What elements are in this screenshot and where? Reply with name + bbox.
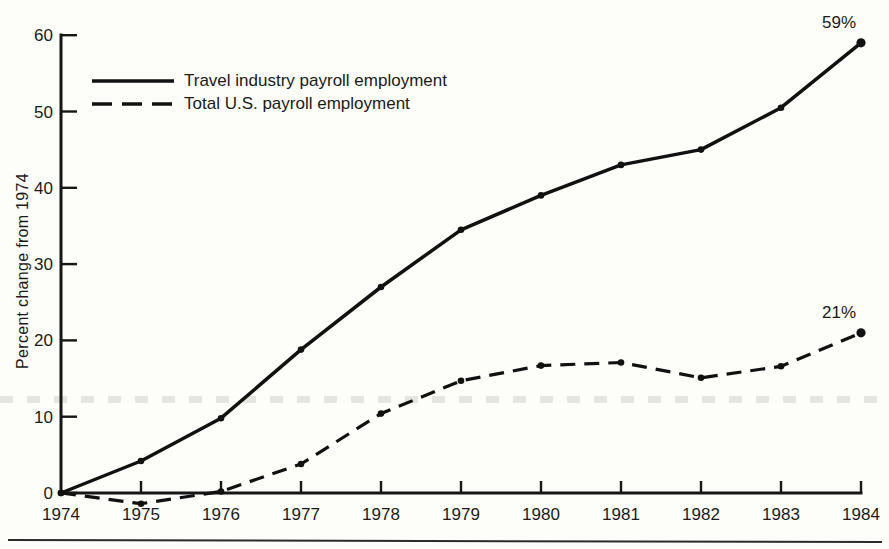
data-point-marker [856, 328, 865, 337]
data-point-marker [778, 363, 785, 370]
y-tick-label: 10 [34, 408, 53, 427]
data-point-marker [298, 346, 305, 353]
end-label-total-us: 21% [822, 303, 856, 323]
legend-label-total-us: Total U.S. payroll employment [184, 94, 410, 114]
data-point-marker [618, 359, 625, 366]
data-point-marker [218, 488, 225, 495]
data-point-marker [856, 38, 865, 47]
data-point-marker [218, 415, 225, 422]
dashed-line-sample-icon [91, 99, 175, 109]
y-tick-label: 30 [34, 255, 53, 274]
data-point-marker [538, 362, 545, 369]
x-tick-label: 1975 [122, 505, 160, 524]
y-tick-label: 40 [34, 179, 53, 198]
y-axis-title: Percent change from 1974 [14, 161, 34, 381]
legend: Travel industry payroll employment Total… [91, 69, 447, 115]
solid-line-sample-icon [91, 76, 175, 86]
data-point-marker [378, 284, 385, 291]
x-tick-label: 1983 [762, 505, 800, 524]
y-tick-label: 60 [34, 26, 53, 45]
series-line-dashed [61, 333, 861, 504]
legend-label-travel-industry: Travel industry payroll employment [184, 71, 447, 91]
x-tick-label: 1978 [362, 505, 400, 524]
data-point-marker [378, 410, 385, 417]
y-tick-label: 50 [34, 103, 53, 122]
x-tick-label: 1976 [202, 505, 240, 524]
data-point-marker [538, 192, 545, 199]
data-point-marker [698, 375, 705, 382]
data-point-marker [58, 490, 65, 497]
x-tick-label: 1977 [282, 505, 320, 524]
legend-item-travel-industry: Travel industry payroll employment [91, 69, 447, 92]
data-point-marker [298, 461, 305, 468]
x-tick-label: 1980 [522, 505, 560, 524]
x-tick-label: 1979 [442, 505, 480, 524]
legend-item-total-us: Total U.S. payroll employment [91, 92, 447, 115]
x-tick-label: 1974 [42, 505, 80, 524]
data-point-marker [698, 146, 705, 153]
data-point-marker [138, 500, 145, 507]
end-label-travel-industry: 59% [822, 13, 856, 33]
data-point-marker [138, 458, 145, 465]
y-tick-label: 20 [34, 331, 53, 350]
data-point-marker [458, 378, 465, 385]
line-chart-figure: 0102030405060197419751976197719781979198… [0, 0, 889, 549]
data-point-marker [778, 104, 785, 111]
x-tick-label: 1982 [682, 505, 720, 524]
x-tick-label: 1984 [842, 505, 880, 524]
data-point-marker [618, 162, 625, 169]
data-point-marker [458, 227, 465, 234]
x-tick-label: 1981 [602, 505, 640, 524]
y-tick-label: 0 [44, 484, 53, 503]
